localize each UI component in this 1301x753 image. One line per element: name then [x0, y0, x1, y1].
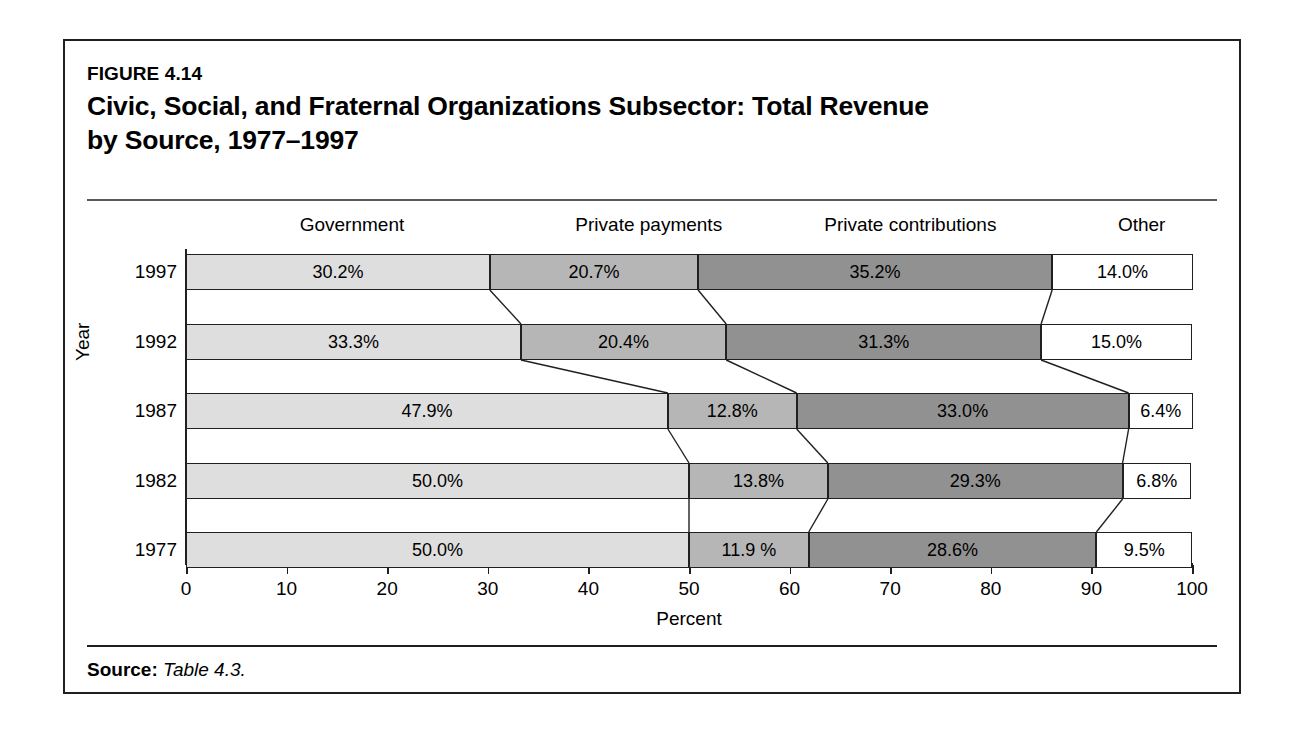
bar-segment-private-payments: 12.8% — [668, 393, 797, 429]
x-tick-label: 60 — [779, 577, 800, 601]
bar-segment-private-contributions: 28.6% — [809, 532, 1097, 568]
figure-panel: FIGURE 4.14 Civic, Social, and Fraternal… — [63, 39, 1241, 694]
bar-segment-other: 6.8% — [1123, 463, 1191, 499]
bar-segment-government: 33.3% — [186, 324, 521, 360]
x-tick-mark — [1192, 565, 1194, 574]
year-label-1987: 1987 — [113, 400, 177, 422]
column-header-government: Government — [300, 213, 405, 237]
y-axis-title: Year — [73, 323, 93, 361]
bar-row-1987: 47.9%12.8%33.0%6.4% — [186, 393, 1192, 429]
x-tick-label: 40 — [578, 577, 599, 601]
bar-segment-government: 47.9% — [186, 393, 668, 429]
bar-segment-government: 30.2% — [186, 254, 490, 290]
x-tick-label: 90 — [1081, 577, 1102, 601]
bar-segment-other: 6.4% — [1129, 393, 1193, 429]
bar-segment-government: 50.0% — [186, 463, 689, 499]
bar-segment-private-payments: 13.8% — [689, 463, 828, 499]
bar-row-1977: 50.0%11.9 %28.6%9.5% — [186, 532, 1192, 568]
connector-line — [726, 360, 796, 393]
x-tick-label: 80 — [980, 577, 1001, 601]
year-label-1982: 1982 — [113, 470, 177, 492]
column-header-private-contributions: Private contributions — [824, 213, 996, 237]
bar-segment-private-payments: 20.7% — [490, 254, 698, 290]
source-note: Source: Table 4.3. — [87, 657, 246, 683]
x-tick-label: 100 — [1176, 577, 1208, 601]
column-header-row: GovernmentPrivate paymentsPrivate contri… — [186, 213, 1192, 241]
connector-line — [809, 499, 828, 532]
x-tick-label: 0 — [181, 577, 192, 601]
bar-segment-private-contributions: 29.3% — [828, 463, 1123, 499]
connector-line — [797, 429, 828, 463]
connector-line — [521, 360, 668, 393]
bar-segment-other: 14.0% — [1052, 254, 1193, 290]
connector-line — [668, 429, 689, 463]
connector-line — [1041, 360, 1129, 393]
bar-segment-private-contributions: 33.0% — [797, 393, 1129, 429]
year-label-1977: 1977 — [113, 539, 177, 561]
column-header-private-payments: Private payments — [575, 213, 722, 237]
segment-connector-lines — [65, 41, 1243, 696]
source-divider — [87, 645, 1217, 647]
x-tick-label: 30 — [477, 577, 498, 601]
source-label: Source: — [87, 659, 158, 680]
connector-line — [1096, 499, 1122, 532]
bar-segment-government: 50.0% — [186, 532, 689, 568]
connector-line — [1041, 290, 1052, 324]
bar-segment-private-payments: 11.9 % — [689, 532, 809, 568]
x-axis-title: Percent — [186, 607, 1192, 631]
bar-row-1992: 33.3%20.4%31.3%15.0% — [186, 324, 1192, 360]
connector-line — [698, 290, 726, 324]
x-tick-label: 50 — [678, 577, 699, 601]
bar-segment-other: 9.5% — [1096, 532, 1192, 568]
bar-segment-private-payments: 20.4% — [521, 324, 726, 360]
bar-segment-private-contributions: 31.3% — [726, 324, 1041, 360]
connector-line — [490, 290, 521, 324]
column-header-other: Other — [1118, 213, 1166, 237]
x-tick-label: 10 — [276, 577, 297, 601]
chart-plot-area: GovernmentPrivate paymentsPrivate contri… — [65, 41, 1239, 692]
connector-line — [1123, 429, 1129, 463]
source-text: Table 4.3. — [163, 659, 246, 680]
x-tick-label: 70 — [880, 577, 901, 601]
x-tick-label: 20 — [377, 577, 398, 601]
bar-row-1997: 30.2%20.7%35.2%14.0% — [186, 254, 1192, 290]
bar-row-1982: 50.0%13.8%29.3%6.8% — [186, 463, 1192, 499]
year-label-1997: 1997 — [113, 261, 177, 283]
bar-segment-private-contributions: 35.2% — [698, 254, 1052, 290]
year-label-1992: 1992 — [113, 331, 177, 353]
bar-segment-other: 15.0% — [1041, 324, 1192, 360]
